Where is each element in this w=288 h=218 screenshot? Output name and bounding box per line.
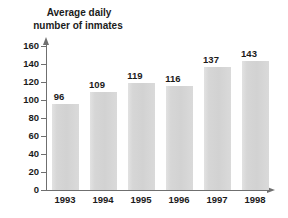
y-axis-arrow-icon: [43, 37, 49, 45]
bar-1996: [166, 86, 193, 190]
bar-value-1994: 109: [77, 80, 117, 90]
plot-area: [46, 46, 276, 190]
bar-1993: [52, 104, 79, 190]
chart-title: Average daily number of inmates: [18, 6, 138, 32]
bar-1995: [128, 83, 155, 190]
y-axis-label-140: 140: [0, 59, 39, 69]
y-axis-label-20: 20: [0, 167, 39, 177]
y-axis-label-80: 80: [0, 113, 39, 123]
y-axis-label-120: 120: [0, 77, 39, 87]
bar-1998: [242, 61, 269, 190]
bar-chart: Average daily number of inmates 160 140 …: [0, 0, 288, 218]
y-axis-label-40: 40: [0, 149, 39, 159]
bar-value-1998: 143: [229, 49, 269, 59]
y-tick-mark: [41, 190, 46, 191]
bar-1997: [204, 67, 231, 190]
chart-title-line-2: number of inmates: [18, 19, 138, 32]
bar-value-1995: 119: [115, 71, 155, 81]
chart-title-line-1: Average daily: [18, 6, 138, 19]
y-axis-label-0: 0: [0, 185, 39, 195]
y-axis-label-60: 60: [0, 131, 39, 141]
bar-value-1997: 137: [191, 55, 231, 65]
bar-value-1993: 96: [39, 92, 79, 102]
x-axis-label-1998: 1998: [233, 194, 277, 205]
y-axis-label-160: 160: [0, 41, 39, 51]
bar-value-1996: 116: [153, 74, 193, 84]
y-axis-label-100: 100: [0, 95, 39, 105]
x-axis-line: [46, 190, 268, 191]
bar-1994: [90, 92, 117, 190]
